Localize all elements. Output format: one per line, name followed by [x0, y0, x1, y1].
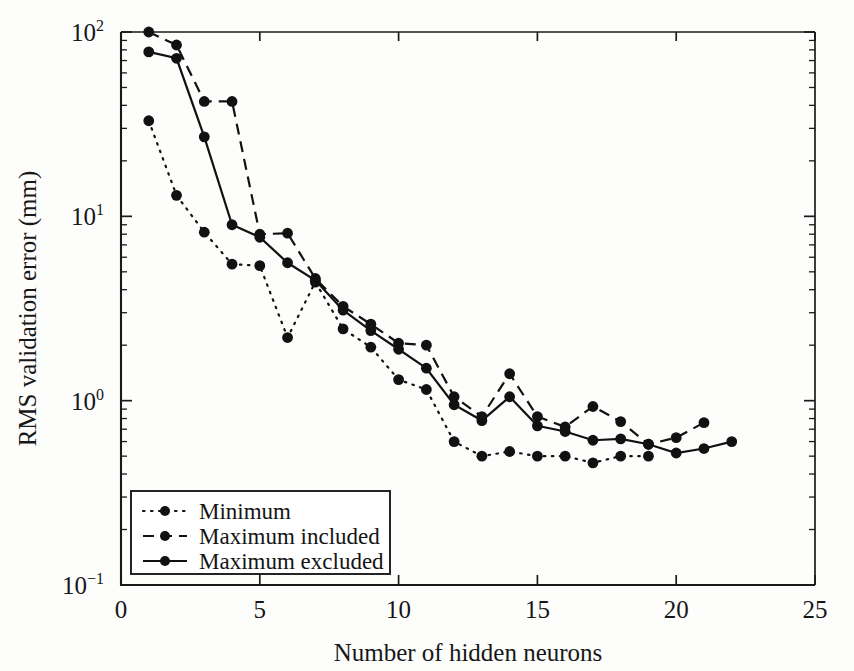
data-point-marker — [199, 227, 210, 238]
data-point-marker — [476, 451, 487, 462]
data-point-marker — [282, 332, 293, 343]
data-point-marker — [365, 342, 376, 353]
x-tick-label: 15 — [525, 596, 550, 623]
data-point-marker — [532, 451, 543, 462]
data-point-marker — [588, 401, 599, 412]
y-tick-label: 102 — [71, 17, 104, 46]
legend-label: Maximum included — [199, 524, 380, 549]
data-point-marker — [532, 420, 543, 431]
data-point-marker — [143, 27, 154, 38]
data-point-marker — [421, 363, 432, 374]
data-point-marker — [643, 439, 654, 450]
data-point-marker — [588, 435, 599, 446]
legend-label: Maximum excluded — [199, 549, 384, 574]
data-point-marker — [338, 324, 349, 335]
figure-canvas: 0510152025Number of hidden neurons10−110… — [0, 0, 854, 671]
y-tick-label: 10−1 — [62, 570, 104, 599]
data-point-marker — [588, 457, 599, 468]
data-point-marker — [671, 448, 682, 459]
data-point-marker — [171, 190, 182, 201]
data-point-marker — [449, 399, 460, 410]
x-tick-label: 10 — [386, 596, 411, 623]
data-point-marker — [615, 451, 626, 462]
data-point-marker — [227, 96, 238, 107]
data-point-marker — [282, 257, 293, 268]
series-line — [149, 52, 732, 453]
y-tick-label: 101 — [71, 201, 104, 230]
data-point-marker — [310, 275, 321, 286]
x-tick-label: 5 — [254, 596, 267, 623]
legend-marker-icon — [160, 506, 170, 516]
data-point-marker — [393, 374, 404, 385]
data-point-marker — [560, 451, 571, 462]
x-tick-label: 0 — [115, 596, 128, 623]
data-point-marker — [449, 436, 460, 447]
legend-marker-icon — [160, 531, 170, 541]
data-point-marker — [338, 305, 349, 316]
data-point-marker — [726, 436, 737, 447]
legend-marker-icon — [160, 556, 170, 566]
data-point-marker — [476, 415, 487, 426]
data-point-marker — [421, 384, 432, 395]
data-point-marker — [504, 446, 515, 457]
data-point-marker — [227, 219, 238, 230]
x-tick-label: 25 — [803, 596, 828, 623]
x-tick-label: 20 — [664, 596, 689, 623]
x-axis-label: Number of hidden neurons — [334, 639, 603, 666]
data-point-marker — [671, 432, 682, 443]
series-line — [149, 32, 704, 444]
data-point-marker — [143, 46, 154, 57]
data-point-marker — [615, 434, 626, 445]
data-point-marker — [199, 131, 210, 142]
data-point-marker — [393, 344, 404, 355]
data-point-marker — [643, 451, 654, 462]
data-point-marker — [143, 115, 154, 126]
data-point-marker — [699, 443, 710, 454]
data-point-marker — [227, 259, 238, 270]
series-line — [149, 121, 649, 463]
y-tick-label: 100 — [71, 386, 104, 415]
data-point-marker — [504, 391, 515, 402]
data-point-marker — [365, 325, 376, 336]
rms-validation-error-chart: 0510152025Number of hidden neurons10−110… — [0, 0, 854, 671]
data-point-marker — [254, 232, 265, 243]
data-point-marker — [504, 368, 515, 379]
data-point-marker — [199, 96, 210, 107]
data-point-marker — [254, 260, 265, 271]
data-point-marker — [282, 228, 293, 239]
y-axis-label: RMS validation error (mm) — [14, 171, 42, 447]
legend: MinimumMaximum includedMaximum excluded — [131, 491, 390, 574]
series-layer — [143, 27, 737, 469]
data-point-marker — [699, 417, 710, 428]
data-point-marker — [421, 340, 432, 351]
data-point-marker — [171, 40, 182, 51]
data-point-marker — [171, 53, 182, 64]
data-series — [143, 115, 653, 468]
legend-label: Minimum — [199, 499, 291, 524]
data-point-marker — [560, 426, 571, 437]
data-point-marker — [615, 416, 626, 427]
